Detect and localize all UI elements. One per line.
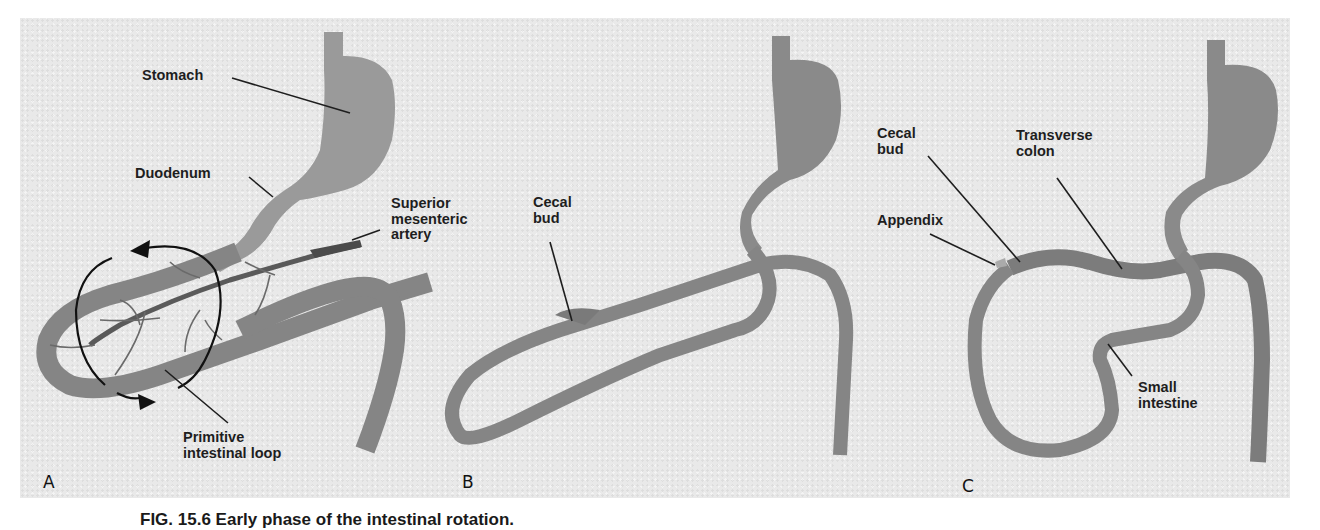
- label-stomach: Stomach: [142, 68, 203, 84]
- panel-letter-b: B: [462, 472, 474, 492]
- panel-b-stomach: [740, 36, 841, 258]
- label-cecal-bud-b: Cecal bud: [533, 195, 572, 226]
- panel-letter-c: C: [962, 476, 974, 496]
- label-appendix: Appendix: [877, 213, 943, 229]
- label-duodenum: Duodenum: [135, 166, 211, 182]
- label-primitive-intestinal-loop: Primitive intestinal loop: [183, 430, 281, 461]
- label-superior-mesenteric-artery: Superior mesenteric artery: [391, 196, 468, 243]
- panel-b-drawing: [452, 36, 846, 455]
- panel-b-duodenal-loop: [452, 250, 846, 455]
- panel-a-stomach: [210, 32, 395, 272]
- panel-a-drawing: [46, 32, 430, 452]
- label-transverse-colon: Transverse colon: [1016, 128, 1093, 159]
- panel-letter-a: A: [43, 472, 55, 492]
- panel-c-drawing: [928, 40, 1278, 462]
- panel-c-colon: [1010, 257, 1262, 462]
- label-small-intestine: Small intestine: [1138, 380, 1198, 411]
- arrowhead-bottom: [138, 394, 156, 410]
- label-cecal-bud-c: Cecal bud: [877, 126, 916, 157]
- arrowhead-top: [130, 240, 150, 258]
- figure-caption: FIG. 15.6 Early phase of the intestinal …: [140, 510, 514, 530]
- panel-c-small-intestine: [975, 255, 1198, 451]
- panel-c-stomach: [1164, 40, 1278, 260]
